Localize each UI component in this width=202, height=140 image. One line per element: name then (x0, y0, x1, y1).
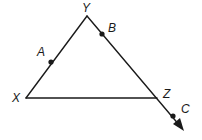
point-c (170, 113, 175, 118)
point-a (48, 59, 53, 64)
segment-xy (26, 16, 87, 98)
label-c: C (181, 102, 190, 116)
label-y: Y (82, 1, 91, 15)
point-b (99, 31, 104, 36)
label-x: X (11, 91, 21, 105)
label-a: A (36, 45, 45, 59)
label-z: Z (162, 87, 171, 101)
label-b: B (108, 21, 116, 35)
triangle-diagram: Y B A X Z C (0, 0, 202, 140)
